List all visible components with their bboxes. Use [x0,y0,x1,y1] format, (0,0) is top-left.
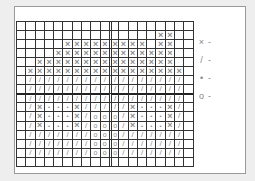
grid-cell [16,157,25,166]
grid-cell [137,30,146,39]
grid-cell [16,148,25,157]
grid-cell [25,157,34,166]
grid-cell: × [146,66,155,75]
grid-cell: / [53,75,62,84]
grid-cell [165,21,174,30]
grid-cell [62,157,71,166]
grid-cell [183,66,192,75]
grid-cell [183,30,192,39]
slash-icon: / [57,149,59,157]
slash-icon: / [67,149,69,157]
grid-cell: • [146,111,155,120]
slash-icon: / [150,76,152,84]
grid-cell: / [128,84,137,93]
grid-cell: / [146,84,155,93]
slash-icon: / [76,76,78,84]
grid-cell: • [53,121,62,130]
slash-icon: / [29,131,31,139]
grid-cell: • [62,102,71,111]
dot-icon: • [150,104,152,110]
grid-cell: / [146,93,155,102]
slash-icon: / [48,76,50,84]
slash-icon: / [178,85,180,93]
grid-cell [35,39,44,48]
grid-cell [53,30,62,39]
circle-icon: o [113,131,117,138]
grid-cell [118,21,127,30]
grid-cell: / [25,84,34,93]
slash-icon: / [197,55,206,65]
grid-cell [90,30,99,39]
grid-cell: / [146,139,155,148]
grid-cell [183,157,192,166]
grid-cell: / [100,102,109,111]
slash-icon: / [104,85,106,93]
grid-cell: × [165,66,174,75]
legend-label: - [208,73,211,83]
grid-cell: / [118,148,127,157]
grid-cell: × [81,66,90,75]
grid-cell: / [81,148,90,157]
grid-cell [62,30,71,39]
grid-cell: × [165,30,174,39]
slash-icon: / [122,103,124,111]
slash-icon: / [48,85,50,93]
slash-icon: / [29,149,31,157]
slash-icon: / [39,85,41,93]
grid-cell: × [155,30,164,39]
grid-cell: × [90,48,99,57]
grid-cell: × [128,48,137,57]
grid-cell: × [53,48,62,57]
grid-cell: / [44,75,53,84]
grid-cell: / [109,93,118,102]
grid-cell [146,39,155,48]
slash-icon: / [57,76,59,84]
slash-icon: / [67,131,69,139]
grid-cell: / [109,75,118,84]
dot-icon: • [67,123,69,129]
grid-cell: / [81,102,90,111]
grid-cell [137,21,146,30]
grid-cell [137,157,146,166]
circle-icon: o [103,140,107,147]
grid-cell [128,21,137,30]
grid-cell: / [81,75,90,84]
grid-cell: / [72,84,81,93]
slash-icon: / [150,85,152,93]
grid-cell [183,39,192,48]
slash-icon: / [85,149,87,157]
grid-cell: × [118,57,127,66]
grid-cell: × [72,66,81,75]
grid-cell: / [174,84,183,93]
grid-cell: / [44,93,53,102]
grid-cell: × [118,39,127,48]
grid-cell [25,57,34,66]
grid-cell: • [155,102,164,111]
grid-cell: × [109,39,118,48]
grid-cell [155,21,164,30]
grid-cell: / [128,75,137,84]
slash-icon: / [29,103,31,111]
grid-cell: / [53,93,62,102]
slash-icon: / [159,140,161,148]
grid-cell [109,157,118,166]
grid-cell: / [100,75,109,84]
slash-icon: / [159,76,161,84]
slash-icon: / [141,131,143,139]
grid-cell: o [90,111,99,120]
slash-icon: / [57,131,59,139]
grid-cell: / [137,75,146,84]
grid-cell [16,93,25,102]
circle-icon: o [94,131,98,138]
dot-icon: • [57,113,59,119]
grid-cell: × [128,66,137,75]
grid-cell [72,21,81,30]
grid-cell: / [35,139,44,148]
grid-cell: / [155,84,164,93]
grid-cell: / [174,148,183,157]
grid-cell [183,148,192,157]
slash-icon: / [159,131,161,139]
grid-cell: o [90,121,99,130]
slash-icon: / [132,76,134,84]
grid-cell: / [25,75,34,84]
